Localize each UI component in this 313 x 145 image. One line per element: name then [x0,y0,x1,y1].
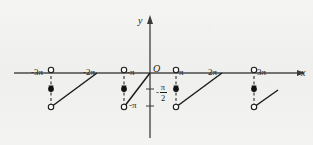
x-tick-label-neg3pi: -3π [31,68,43,77]
x-tick-label-neg2pi: -2π [83,68,95,77]
fraction: π 2 [160,83,167,102]
filled-point [48,86,54,92]
filled-point [251,86,257,92]
y-tick-label-neg-half-pi: - π 2 [156,83,167,102]
drop-lines [48,76,256,104]
filled-point [173,86,179,92]
open-point [251,104,256,109]
filled-point [121,86,127,92]
segment-pi-2pi [176,73,222,107]
segment-3pi-partial [254,90,278,107]
math-graph-figure: y x O -3π -2π -π π 2π 3π - π 2 -π [0,0,313,145]
origin-label: O [153,64,160,74]
x-tick-label-2pi: 2π [208,68,217,77]
x-tick-label-3pi: 3π [257,68,266,77]
fraction-denominator: 2 [160,94,166,103]
open-point [121,104,126,109]
open-point [48,104,53,109]
open-point [251,67,256,72]
x-tick-label-negpi: -π [127,68,135,77]
x-tick-label-pi: π [179,68,184,77]
segment-neg3pi-neg2pi [51,73,97,107]
open-point [48,67,53,72]
x-axis-label: x [301,68,305,78]
open-point-markers-bottom [48,104,256,109]
fraction-numerator: π [160,83,166,92]
segment-negpi-origin [124,73,150,107]
open-point [121,67,126,72]
y-tick-label-negpi: -π [129,101,137,110]
open-point [173,67,178,72]
y-axis-label: y [138,16,142,26]
open-point [173,104,178,109]
